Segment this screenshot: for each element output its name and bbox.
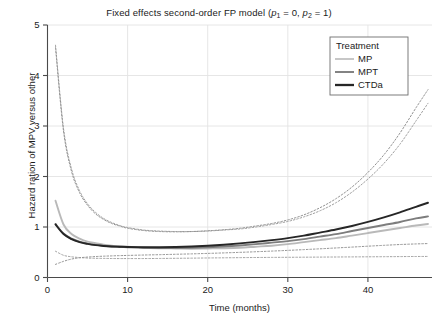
plot-canvas: 012345010203040 TreatmentMPMPTCTDa [0,0,438,325]
y-tick-label: 1 [34,221,39,232]
y-tick-label: 0 [34,272,39,283]
x-tick-label: 40 [363,284,374,295]
legend-title: Treatment [336,40,379,51]
y-tick-label: 5 [34,19,39,30]
chart-figure: Fixed effects second-order FP model (p1 … [0,0,438,325]
y-tick-label: 2 [34,171,39,182]
x-tick-label: 0 [45,284,50,295]
x-tick-label: 10 [122,284,133,295]
legend-label-mpt[interactable]: MPT [358,66,378,77]
legend-label-mp[interactable]: MP [358,53,372,64]
series-line-mp [56,201,428,249]
series-line-ctda [56,203,428,247]
chart-legend: TreatmentMPMPTCTDa [330,37,408,95]
axis-tick-labels: 012345010203040 [34,19,373,294]
x-tick-label: 30 [283,284,294,295]
legend-label-ctda[interactable]: CTDa [358,79,384,90]
y-tick-label: 3 [34,120,39,131]
y-tick-label: 4 [34,70,39,81]
x-tick-label: 20 [202,284,213,295]
